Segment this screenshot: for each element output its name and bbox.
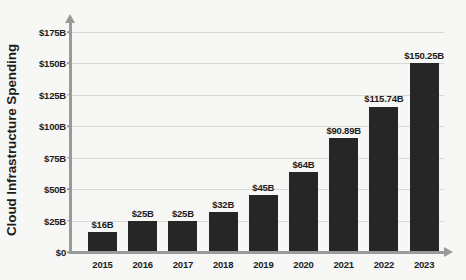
x-axis-tick-label: 2017	[173, 259, 193, 270]
x-axis-line	[69, 251, 445, 254]
bar-value-label: $64B	[293, 159, 315, 170]
bar-value-label: $90.89B	[326, 125, 361, 136]
bar-value-label: $32B	[212, 199, 234, 210]
bar[interactable]	[410, 63, 439, 252]
x-axis-tick-label: 2019	[253, 259, 273, 270]
y-axis-tick-label: $25B	[4, 215, 66, 226]
x-axis-tick-label: 2018	[213, 259, 233, 270]
y-axis-arrow-icon	[65, 14, 75, 23]
bar[interactable]	[329, 138, 358, 252]
bar-chart: Cloud Infrastructure Spending $0$25B$50B…	[0, 0, 466, 280]
bar-value-label: $45B	[252, 182, 274, 193]
y-axis-tick-label: $100B	[4, 121, 66, 132]
plot-area	[71, 32, 444, 252]
bar-value-label: $25B	[132, 208, 154, 219]
x-axis-tick-label: 2022	[374, 259, 394, 270]
bar[interactable]	[249, 195, 278, 252]
bar-value-label: $115.74B	[364, 93, 403, 104]
y-axis-tick-label: $175B	[4, 27, 66, 38]
bar[interactable]	[209, 212, 238, 252]
x-axis-tick-label: 2020	[293, 259, 313, 270]
y-axis-tick-label: $125B	[4, 89, 66, 100]
bar[interactable]	[369, 107, 398, 253]
gridline	[71, 32, 444, 33]
bar-value-label: $16B	[92, 219, 114, 230]
x-axis-tick-label: 2015	[92, 259, 112, 270]
y-axis-tick-label: $75B	[4, 152, 66, 163]
x-axis-arrow-icon	[444, 247, 453, 257]
y-axis-tick-label: $0	[4, 247, 66, 258]
bar[interactable]	[88, 232, 117, 252]
y-axis-line	[69, 22, 72, 253]
bar[interactable]	[289, 172, 318, 252]
x-axis-tick-label: 2016	[133, 259, 153, 270]
gridline	[71, 63, 444, 64]
y-axis-tick-labels: $0$25B$50B$75B$100B$125B$150B$175B	[0, 0, 66, 280]
x-axis-tick-label: 2023	[414, 259, 434, 270]
x-axis-tick-label: 2021	[334, 259, 354, 270]
bar[interactable]	[128, 221, 157, 252]
bar[interactable]	[168, 221, 197, 252]
bar-value-label: $150.25B	[404, 50, 444, 61]
bar-value-label: $25B	[172, 208, 194, 219]
y-axis-tick-label: $50B	[4, 184, 66, 195]
y-axis-tick-label: $150B	[4, 58, 66, 69]
